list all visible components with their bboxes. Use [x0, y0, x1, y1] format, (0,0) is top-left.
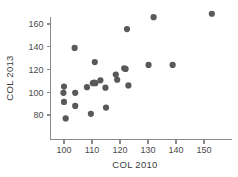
data-point: [92, 59, 98, 65]
data-point: [123, 66, 129, 72]
data-point: [61, 99, 67, 105]
data-points-layer: [60, 11, 215, 122]
data-point: [84, 84, 90, 90]
data-point: [60, 90, 66, 96]
data-point: [88, 111, 94, 117]
data-point: [125, 82, 131, 88]
data-point: [72, 45, 78, 51]
y-tick-label-80: 80: [33, 110, 43, 120]
y-axis-title: COL 2013: [4, 55, 15, 100]
data-point: [151, 14, 157, 20]
x-tick-label-130: 130: [140, 145, 155, 155]
y-tick-label-160: 160: [28, 19, 43, 29]
x-axis-title: COL 2010: [112, 159, 157, 170]
x-tick-label-120: 120: [112, 145, 127, 155]
data-point: [145, 62, 151, 68]
data-point: [114, 77, 120, 83]
data-point: [63, 115, 69, 121]
data-point: [72, 90, 78, 96]
data-point: [72, 103, 78, 109]
data-point: [209, 11, 215, 17]
y-tick-label-120: 120: [28, 65, 43, 75]
x-tick-label-110: 110: [85, 145, 99, 155]
data-point: [170, 62, 176, 68]
y-axis: 80100120140160: [28, 17, 50, 140]
x-tick-label-100: 100: [56, 145, 71, 155]
data-point: [97, 77, 103, 83]
plot-area: 80100120140160 100110120130140150 COL 20…: [0, 0, 238, 177]
scatter-chart: 80100120140160 100110120130140150 COL 20…: [0, 0, 238, 177]
data-point: [124, 26, 130, 32]
data-point: [103, 105, 109, 111]
x-tick-label-150: 150: [196, 145, 211, 155]
data-point: [102, 85, 108, 91]
y-tick-label-100: 100: [28, 88, 43, 98]
data-point: [61, 83, 67, 89]
x-axis: 100110120130140150: [51, 140, 233, 155]
y-tick-label-140: 140: [28, 42, 43, 52]
x-tick-label-140: 140: [168, 145, 183, 155]
